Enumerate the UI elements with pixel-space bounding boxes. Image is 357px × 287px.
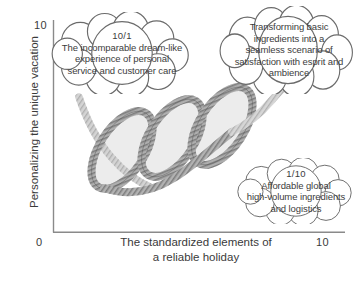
y-axis-title: Personalizing the unique vacation xyxy=(28,22,40,222)
cloud-outline-premium xyxy=(52,11,188,96)
x-axis-title: The standardized elements of a reliable … xyxy=(86,235,306,265)
value-curve-chart: 10 0 10 Personalizing the unique vacatio… xyxy=(0,0,357,287)
x-axis-max-tick: 10 xyxy=(316,236,329,248)
cloud-outline-blended xyxy=(220,5,352,96)
x-axis-title-line1: The standardized elements of xyxy=(86,235,306,250)
y-axis-zero-tick: 0 xyxy=(36,236,42,248)
x-axis-title-line2: a reliable holiday xyxy=(86,250,306,265)
cloud-outline-budget xyxy=(238,157,351,225)
